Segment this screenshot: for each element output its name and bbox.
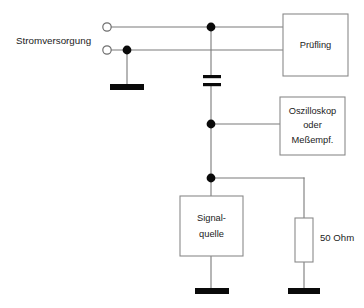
circuit-diagram-canvas: Stromversorgung Prüfling Oszilloskop ode… xyxy=(0,0,364,308)
junction-source-tap-dot xyxy=(207,174,216,183)
terminal-group xyxy=(103,23,111,54)
circuit-diagram: Stromversorgung Prüfling Oszilloskop ode… xyxy=(0,0,364,308)
supply-terminal-top-icon[interactable] xyxy=(103,23,111,31)
power-supply-label: Stromversorgung xyxy=(16,35,91,46)
junction-supply-ground-dot xyxy=(123,46,132,55)
junction-group xyxy=(123,23,216,183)
scope-label-line1: Oszilloskop xyxy=(289,106,337,116)
dut-label: Prüfling xyxy=(300,40,332,50)
scope-label-line3: Meßempf. xyxy=(292,135,334,145)
signal-source-label-line2: quelle xyxy=(199,229,224,239)
signal-source-label-line1: Signal- xyxy=(197,213,226,223)
resistor-box[interactable] xyxy=(295,218,313,262)
capacitor-plate-top xyxy=(203,75,221,78)
resistor-label: 50 Ohm xyxy=(320,232,354,243)
supply-terminal-bottom-icon[interactable] xyxy=(103,46,111,54)
signal-source-box[interactable] xyxy=(180,196,243,256)
capacitor-symbol xyxy=(203,75,221,86)
scope-label-line2: oder xyxy=(303,120,322,130)
ground-supply-icon xyxy=(110,84,144,90)
capacitor-plate-bottom xyxy=(203,83,221,86)
junction-scope-tap-dot xyxy=(207,120,216,129)
ground-source-icon xyxy=(195,288,229,294)
ground-resistor-icon xyxy=(288,288,320,294)
junction-top-rail-dot xyxy=(207,23,216,32)
